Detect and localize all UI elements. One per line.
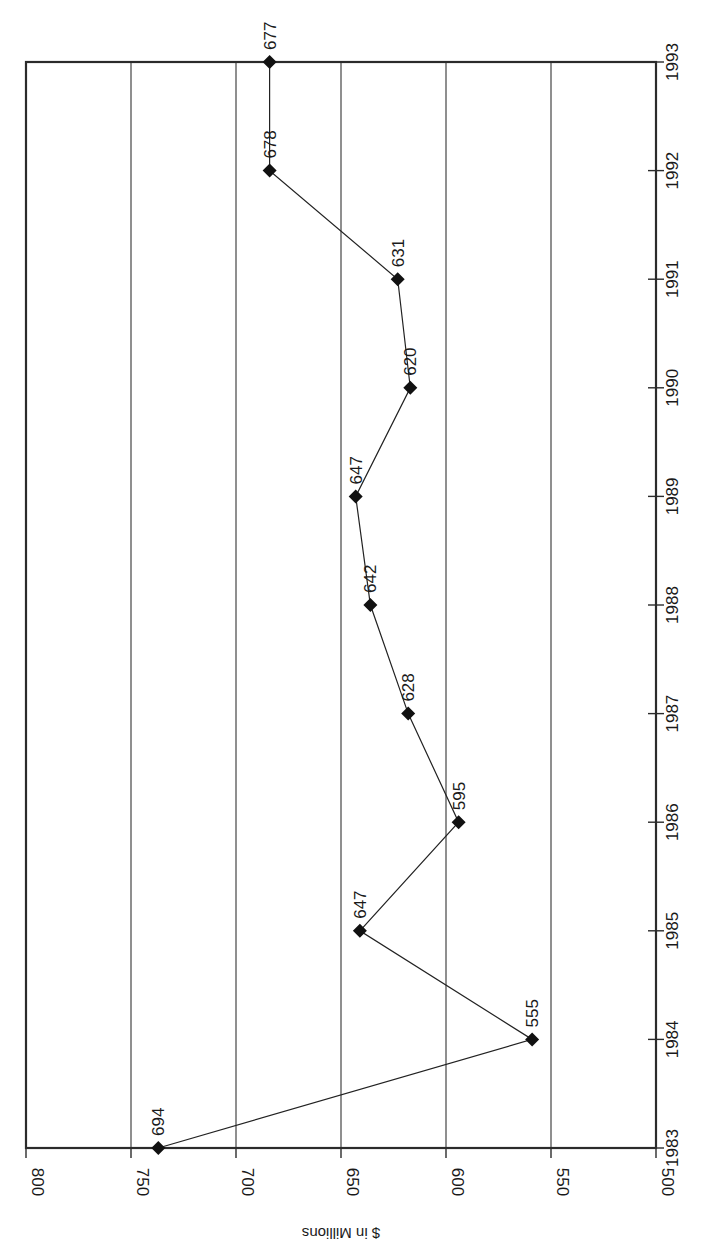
- value-tick-label: 500: [658, 1168, 677, 1196]
- data-label: 647: [351, 890, 370, 918]
- year-label: 1986: [663, 803, 682, 841]
- diamond-marker-icon: [349, 489, 363, 503]
- series-line: [158, 62, 532, 1148]
- data-label: 642: [361, 565, 380, 593]
- value-tick-label: 800: [28, 1168, 47, 1196]
- year-label: 1988: [663, 586, 682, 624]
- value-tick-label: 600: [448, 1168, 467, 1196]
- data-label: 620: [401, 347, 420, 375]
- data-label: 595: [450, 782, 469, 810]
- value-tick-label: 700: [238, 1168, 257, 1196]
- data-labels: 694555647595628642647620631678677: [149, 22, 542, 1136]
- year-label: 1990: [663, 369, 682, 407]
- year-label: 1991: [663, 260, 682, 298]
- year-label: 1989: [663, 477, 682, 515]
- year-label: 1984: [663, 1020, 682, 1058]
- value-tick-label: 650: [343, 1168, 362, 1196]
- data-label: 678: [261, 130, 280, 158]
- data-label: 694: [149, 1108, 168, 1136]
- diamond-marker-icon: [151, 1141, 165, 1155]
- diamond-marker-icon: [363, 598, 377, 612]
- year-label: 1983: [663, 1129, 682, 1167]
- data-label: 631: [389, 239, 408, 267]
- diamond-marker-icon: [263, 55, 277, 69]
- diamond-marker-icon: [403, 381, 417, 395]
- value-tick-label: 750: [133, 1168, 152, 1196]
- value-axis-title: $ in Millions: [302, 1225, 380, 1242]
- gridlines: [131, 62, 551, 1148]
- diamond-marker-icon: [401, 707, 415, 721]
- year-label: 1987: [663, 695, 682, 733]
- year-label: 1993: [663, 43, 682, 81]
- data-label: 628: [399, 673, 418, 701]
- value-tick-label: 550: [553, 1168, 572, 1196]
- line-chart: 8007507006506005505001983198419851986198…: [0, 0, 722, 1250]
- diamond-marker-icon: [525, 1032, 539, 1046]
- axes: 8007507006506005505001983198419851986198…: [26, 43, 682, 1196]
- data-label: 677: [261, 22, 280, 50]
- year-label: 1992: [663, 152, 682, 190]
- year-label: 1985: [663, 912, 682, 950]
- data-series: [151, 55, 539, 1155]
- data-label: 555: [523, 999, 542, 1027]
- data-label: 647: [347, 456, 366, 484]
